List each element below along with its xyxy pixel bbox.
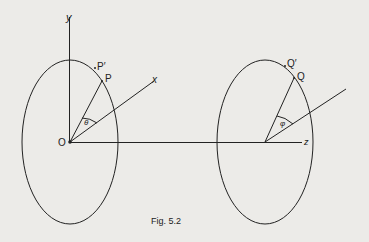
diagram-lines — [0, 0, 369, 242]
phi-label: φ — [280, 120, 285, 128]
point-q-dot — [293, 77, 295, 79]
radius-op — [70, 81, 102, 142]
point-p-dot — [101, 80, 103, 82]
point-p-prime-dot — [94, 67, 96, 69]
origin-dot — [68, 140, 72, 144]
point-q-prime-label: Q′ — [287, 59, 297, 69]
z-axis-label: z — [304, 138, 309, 147]
point-q-label: Q — [297, 72, 305, 82]
origin-label: O — [58, 138, 66, 148]
y-axis-label: y — [66, 12, 72, 23]
point-p-prime-label: P′ — [97, 62, 106, 72]
point-p-label: P — [105, 74, 112, 84]
x-axis — [70, 81, 154, 142]
figure-5-2: y P′ P x θ O Q′ Q φ z Fig. 5.2 — [0, 0, 369, 242]
theta-label: θ — [84, 119, 88, 127]
point-q-prime-dot — [284, 65, 286, 67]
figure-caption: Fig. 5.2 — [151, 217, 181, 226]
x-axis-label: x — [152, 75, 157, 85]
